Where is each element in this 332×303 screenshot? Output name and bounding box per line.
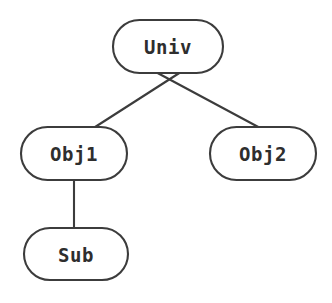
diagram-canvas: Univ Obj1 Obj2 Sub: [0, 0, 332, 303]
node-univ-label: Univ: [144, 36, 192, 58]
node-obj2[interactable]: Obj2: [210, 127, 316, 180]
node-sub[interactable]: Sub: [24, 228, 128, 280]
node-obj2-label: Obj2: [239, 143, 287, 165]
node-univ[interactable]: Univ: [113, 20, 223, 73]
node-obj1[interactable]: Obj1: [21, 127, 127, 180]
edge-univ-obj2: [152, 70, 262, 129]
node-sub-label: Sub: [58, 244, 94, 266]
node-obj1-label: Obj1: [50, 143, 98, 165]
hierarchy-diagram: Univ Obj1 Obj2 Sub: [0, 0, 332, 303]
